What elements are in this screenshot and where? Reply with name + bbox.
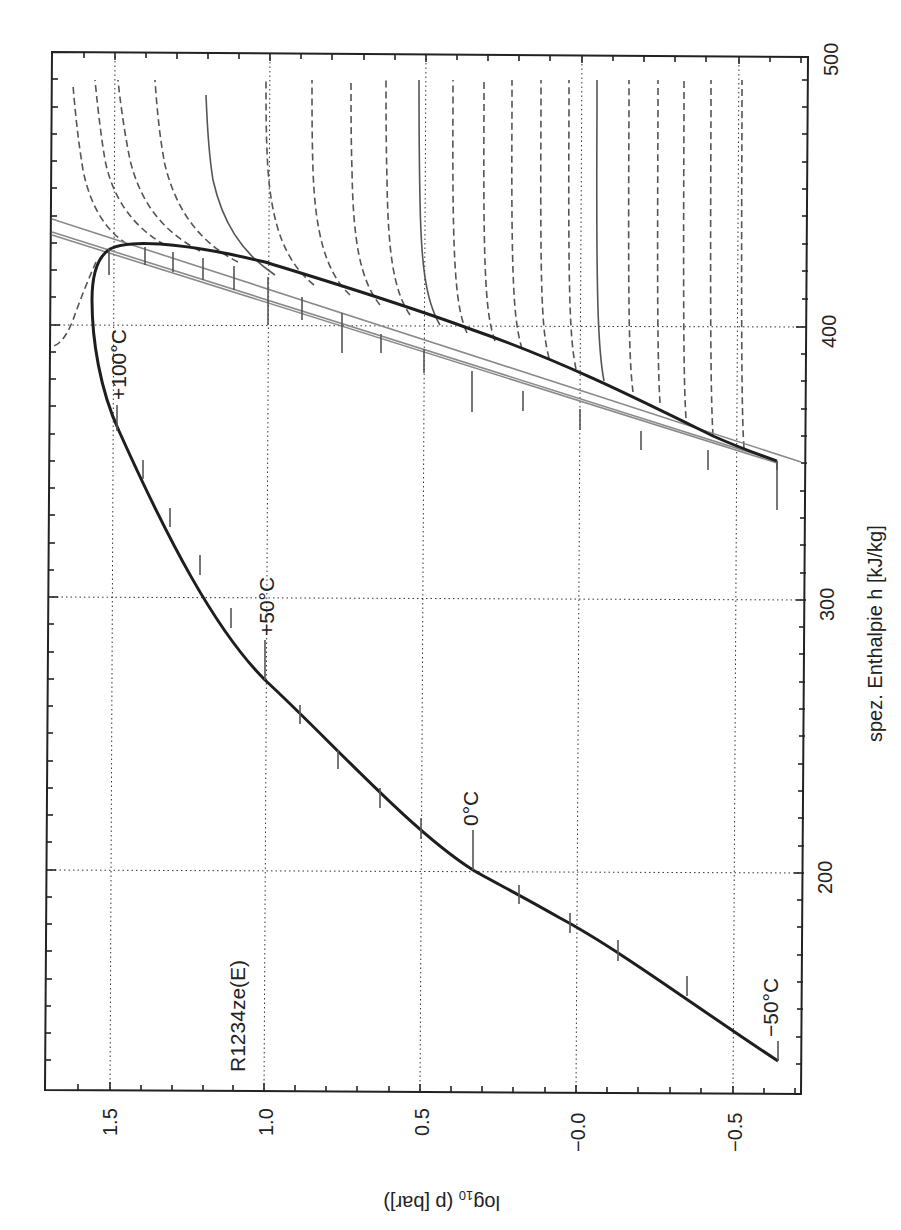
- label-plus-50c: +50°C: [255, 577, 278, 636]
- isotherms: [53, 80, 777, 470]
- isentropes: [52, 219, 801, 463]
- x-tick-300: 300: [816, 588, 838, 621]
- saturation-tick-marks: [109, 247, 778, 1061]
- y-tick-minus-0-5: −0.5: [724, 1113, 746, 1152]
- label-0c: 0°C: [459, 791, 482, 826]
- y-tick-0-5: 0.5: [411, 1108, 433, 1136]
- p-gridlines: [110, 52, 739, 1094]
- y-axis-rest: (p [bar]): [383, 1192, 459, 1214]
- label-plus-100c: +100°C: [107, 329, 130, 400]
- x-axis-title: spez. Enthalpie h [kJ/kg]: [864, 525, 886, 742]
- y-axis-title: log10 (p [bar]): [383, 1188, 500, 1214]
- fluid-name: R1234ze(E): [226, 960, 249, 1072]
- logp-h-chart: −50°C 0°C +50°C +100°C R1234ze(E) 500 40…: [0, 0, 901, 1230]
- h-axis-ticks: [45, 79, 808, 1064]
- h-gridlines: [46, 325, 806, 873]
- y-axis-log: log: [473, 1192, 500, 1214]
- y-tick-1-5: 1.5: [99, 1108, 121, 1136]
- x-tick-400: 400: [818, 315, 840, 348]
- y-axis-sub: 10: [459, 1188, 473, 1203]
- saturated-liquid-line: [92, 244, 778, 1061]
- saturated-vapor-line: [160, 244, 777, 461]
- plot-frame: [45, 52, 808, 1094]
- x-tick-200: 200: [814, 861, 836, 894]
- y-tick-1-0: 1.0: [255, 1108, 277, 1136]
- x-tick-500: 500: [820, 43, 842, 76]
- label-minus-50c: −50°C: [759, 978, 782, 1037]
- y-tick-0-0: −0.0: [567, 1113, 589, 1152]
- p-axis-ticks: [78, 52, 801, 1094]
